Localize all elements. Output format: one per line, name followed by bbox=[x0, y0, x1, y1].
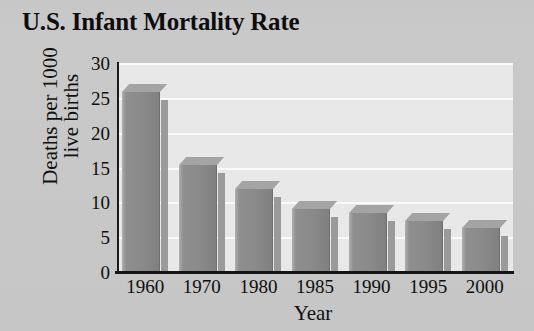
x-axis-tick-label: 2000 bbox=[466, 276, 504, 298]
y-axis-tick-label: 10 bbox=[76, 192, 110, 214]
bar-front-face bbox=[292, 209, 330, 273]
y-axis-tick-label: 25 bbox=[76, 88, 110, 110]
y-axis-tick-labels: 051015202530 bbox=[74, 64, 110, 273]
bar-front-face bbox=[179, 165, 217, 273]
bar-top-face bbox=[462, 220, 507, 228]
bars-layer bbox=[117, 64, 513, 273]
x-axis-line bbox=[115, 271, 514, 274]
y-axis-tick-label: 0 bbox=[76, 262, 110, 284]
bar-side-face bbox=[444, 229, 451, 273]
x-axis-tick-label: 1970 bbox=[183, 276, 221, 298]
bar-front-face bbox=[349, 213, 387, 273]
bar-front-face bbox=[462, 228, 500, 273]
bar bbox=[179, 64, 217, 273]
bar bbox=[462, 64, 500, 273]
y-axis-tick-label: 15 bbox=[76, 158, 110, 180]
bar bbox=[349, 64, 387, 273]
bar-top-face bbox=[235, 181, 280, 189]
bar-front-face bbox=[405, 221, 443, 273]
bar-top-face bbox=[405, 213, 450, 221]
bar-side-face bbox=[331, 217, 338, 273]
x-axis-tick-label: 1995 bbox=[409, 276, 447, 298]
bar bbox=[122, 64, 160, 273]
chart-figure: U.S. Infant Mortality Rate Deaths per 10… bbox=[0, 0, 534, 331]
bar-top-face bbox=[349, 205, 394, 213]
bar bbox=[292, 64, 330, 273]
bar-top-face bbox=[122, 84, 167, 92]
y-axis-tick-label: 20 bbox=[76, 123, 110, 145]
bar-side-face bbox=[388, 221, 395, 273]
x-axis-tick-labels: 1960197019801985199019952000 bbox=[117, 276, 513, 302]
bar-top-face bbox=[179, 157, 224, 165]
y-axis-title-line-1: Deaths per 1000 bbox=[40, 47, 61, 185]
bar-front-face bbox=[235, 189, 273, 273]
bar bbox=[405, 64, 443, 273]
x-axis-title: Year bbox=[0, 301, 534, 326]
bar-top-face bbox=[292, 201, 337, 209]
x-axis-title-text: Year bbox=[294, 301, 333, 325]
y-axis-tick-label: 30 bbox=[76, 53, 110, 75]
x-axis-tick-label: 1990 bbox=[353, 276, 391, 298]
y-axis-tick-label: 5 bbox=[76, 227, 110, 249]
x-axis-tick-label: 1985 bbox=[296, 276, 334, 298]
x-axis-tick-label: 1980 bbox=[239, 276, 277, 298]
bar bbox=[235, 64, 273, 273]
bar-front-face bbox=[122, 92, 160, 273]
bar-side-face bbox=[218, 173, 225, 273]
bar-side-face bbox=[274, 197, 281, 273]
bar-side-face bbox=[161, 100, 168, 273]
bar-side-face bbox=[501, 236, 508, 273]
x-axis-tick-label: 1960 bbox=[126, 276, 164, 298]
